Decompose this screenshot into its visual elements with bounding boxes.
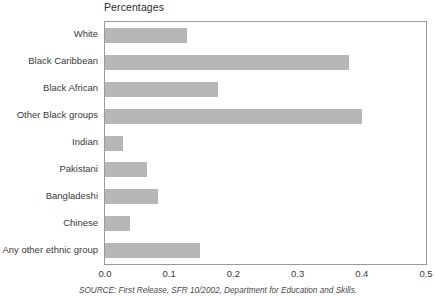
x-axis-tick-label: 0.4 xyxy=(355,268,368,279)
bar-row xyxy=(105,162,426,177)
bar xyxy=(105,162,147,177)
plot-area xyxy=(104,21,427,265)
x-axis-tick-labels: 0.00.10.20.30.40.5 xyxy=(104,268,427,282)
y-axis-label: White xyxy=(0,28,98,39)
bar xyxy=(105,136,123,151)
bar xyxy=(105,109,362,124)
y-axis-labels: WhiteBlack CaribbeanBlack AfricanOther B… xyxy=(0,21,100,265)
x-axis-tick-label: 0.2 xyxy=(227,268,240,279)
bar-row xyxy=(105,243,426,258)
bar-row xyxy=(105,28,426,43)
bar-row xyxy=(105,82,426,97)
chart-title: Percentages xyxy=(104,1,164,13)
bar-row xyxy=(105,216,426,231)
x-axis-tick-label: 0.5 xyxy=(419,268,432,279)
x-axis-tick-label: 0.3 xyxy=(291,268,304,279)
y-axis-label: Pakistani xyxy=(0,163,98,174)
x-axis-tick-label: 0.1 xyxy=(163,268,176,279)
y-axis-label: Chinese xyxy=(0,217,98,228)
bar xyxy=(105,82,218,97)
bar-row xyxy=(105,109,426,124)
bar xyxy=(105,55,349,70)
y-axis-label: Black African xyxy=(0,82,98,93)
bar-row xyxy=(105,189,426,204)
y-axis-label: Other Black groups xyxy=(0,109,98,120)
bar xyxy=(105,189,158,204)
bar xyxy=(105,216,130,231)
bar xyxy=(105,28,187,43)
bar xyxy=(105,243,200,258)
bar-row xyxy=(105,136,426,151)
y-axis-label: Black Caribbean xyxy=(0,55,98,66)
chart-figure: Percentages WhiteBlack CaribbeanBlack Af… xyxy=(0,0,436,297)
bars-container xyxy=(105,22,426,264)
y-axis-label: Any other ethnic group xyxy=(0,244,98,255)
y-axis-label: Bangladeshi xyxy=(0,190,98,201)
bar-row xyxy=(105,55,426,70)
source-note: SOURCE: First Release, SFR 10/2002, Depa… xyxy=(0,286,436,295)
y-axis-label: Indian xyxy=(0,136,98,147)
x-axis-tick-label: 0.0 xyxy=(98,268,111,279)
